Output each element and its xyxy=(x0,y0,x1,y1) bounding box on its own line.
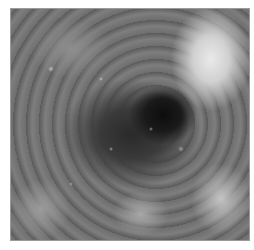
endoscopic-image xyxy=(10,8,250,241)
